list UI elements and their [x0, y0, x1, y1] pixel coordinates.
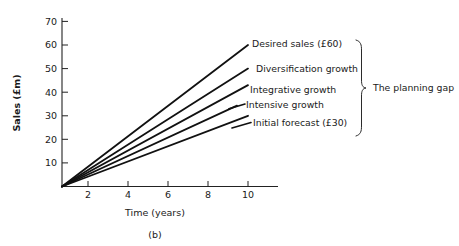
y-tick-label-20: 20 — [45, 134, 57, 145]
series-line-intensive — [62, 106, 237, 187]
x-tick-label-6: 6 — [165, 189, 171, 200]
leader-line-initial-forecast — [232, 123, 251, 129]
y-tick-label-10: 10 — [45, 157, 57, 168]
y-tick-label-30: 30 — [45, 110, 57, 121]
y-axis-title: Sales (£m) — [11, 74, 22, 131]
x-tick-label-8: 8 — [205, 189, 211, 200]
series-lines-group — [62, 45, 248, 187]
y-tick-label-40: 40 — [45, 87, 57, 98]
series-labels-group: Desired sales (£60) Diversification grow… — [246, 38, 358, 128]
planning-gap-chart-figure: 70 60 50 40 30 20 10 2 4 6 8 10 Time (ye… — [0, 0, 459, 246]
x-tick-marks — [88, 181, 248, 187]
series-line-desired-sales — [62, 45, 248, 187]
x-tick-label-2: 2 — [85, 189, 91, 200]
y-tick-label-50: 50 — [45, 63, 57, 74]
y-tick-label-60: 60 — [45, 39, 57, 50]
y-tick-labels: 70 60 50 40 30 20 10 — [45, 16, 57, 169]
series-line-diversification — [62, 69, 248, 187]
series-line-initial-forecast — [62, 116, 248, 187]
series-label-initial-forecast: Initial forecast (£30) — [253, 117, 347, 128]
planning-gap-label: The planning gap — [372, 82, 454, 93]
x-tick-label-4: 4 — [125, 189, 131, 200]
chart-canvas: 70 60 50 40 30 20 10 2 4 6 8 10 Time (ye… — [0, 0, 459, 246]
y-tick-label-70: 70 — [45, 16, 57, 27]
x-tick-labels: 2 4 6 8 10 — [85, 189, 254, 200]
series-label-diversification: Diversification growth — [256, 63, 358, 74]
planning-gap-brace-icon — [356, 40, 366, 136]
figure-caption: (b) — [148, 229, 161, 240]
x-axis-title: Time (years) — [124, 207, 185, 218]
series-label-integrative: Integrative growth — [250, 84, 336, 95]
series-label-desired-sales: Desired sales (£60) — [252, 38, 342, 49]
planning-gap-annotation: The planning gap — [356, 40, 454, 136]
x-tick-label-10: 10 — [242, 189, 254, 200]
y-tick-marks — [62, 21, 68, 163]
series-line-integrative — [62, 85, 248, 186]
series-label-intensive: Intensive growth — [246, 99, 324, 110]
